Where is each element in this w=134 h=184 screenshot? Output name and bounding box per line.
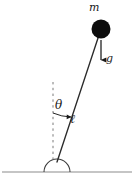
pendulum-figure: m g θ ℓ [0,0,134,184]
angle-label: θ [55,99,62,111]
gravity-label: g [106,53,113,64]
pendulum-bob [92,20,111,39]
angle-arc-arrow [53,113,71,117]
pendulum-diagram-canvas [0,0,134,184]
pendulum-rod [57,29,101,162]
length-label: ℓ [70,113,75,125]
mass-label: m [89,2,99,13]
